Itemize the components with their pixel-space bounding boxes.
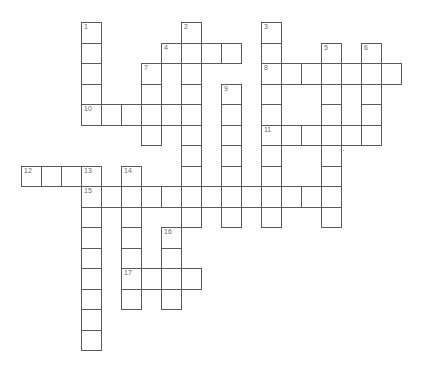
crossword-cell[interactable]	[81, 309, 102, 331]
crossword-cell[interactable]: 11	[261, 125, 282, 147]
crossword-cell[interactable]: 5	[321, 43, 342, 65]
crossword-cell[interactable]	[261, 166, 282, 188]
crossword-cell[interactable]	[221, 186, 242, 208]
crossword-cell[interactable]	[361, 63, 382, 85]
crossword-cell[interactable]: 13	[81, 166, 102, 188]
crossword-cell[interactable]: 14	[121, 166, 142, 188]
clue-number: 15	[84, 187, 92, 195]
crossword-cell[interactable]	[121, 207, 142, 229]
crossword-cell[interactable]	[241, 186, 262, 208]
crossword-cell[interactable]	[161, 248, 182, 270]
crossword-cell[interactable]	[221, 125, 242, 147]
crossword-cell[interactable]	[261, 104, 282, 126]
crossword-cell[interactable]	[141, 186, 162, 208]
crossword-cell[interactable]	[321, 63, 342, 85]
crossword-cell[interactable]: 17	[121, 268, 142, 290]
crossword-cell[interactable]	[81, 84, 102, 106]
crossword-cell[interactable]	[121, 289, 142, 311]
crossword-cell[interactable]	[221, 207, 242, 229]
clue-number: 7	[144, 64, 148, 72]
crossword-cell[interactable]	[141, 125, 162, 147]
crossword-cell[interactable]	[61, 166, 82, 188]
crossword-cell[interactable]: 4	[161, 43, 182, 65]
clue-number: 17	[124, 269, 132, 277]
crossword-cell[interactable]	[281, 63, 302, 85]
crossword-cell[interactable]	[281, 125, 302, 147]
crossword-cell[interactable]	[101, 104, 122, 126]
crossword-cell[interactable]	[81, 63, 102, 85]
crossword-cell[interactable]	[301, 63, 322, 85]
clue-number: 8	[264, 64, 268, 72]
crossword-cell[interactable]	[81, 289, 102, 311]
crossword-cell[interactable]	[141, 104, 162, 126]
crossword-cell[interactable]	[81, 330, 102, 352]
crossword-cell[interactable]	[161, 268, 182, 290]
crossword-cell[interactable]	[141, 84, 162, 106]
crossword-cell[interactable]	[181, 145, 202, 167]
crossword-cell[interactable]	[161, 186, 182, 208]
crossword-cell[interactable]	[181, 84, 202, 106]
crossword-cell[interactable]	[261, 84, 282, 106]
crossword-cell[interactable]	[261, 186, 282, 208]
crossword-cell[interactable]	[261, 207, 282, 229]
crossword-cell[interactable]	[221, 166, 242, 188]
crossword-cell[interactable]	[81, 207, 102, 229]
crossword-cell[interactable]	[181, 166, 202, 188]
crossword-cell[interactable]	[121, 227, 142, 249]
crossword-cell[interactable]: 7	[141, 63, 162, 85]
crossword-cell[interactable]: 10	[81, 104, 102, 126]
crossword-cell[interactable]	[181, 186, 202, 208]
crossword-cell[interactable]	[81, 268, 102, 290]
clue-number: 14	[124, 167, 132, 175]
crossword-cell[interactable]	[381, 63, 402, 85]
crossword-cell[interactable]	[81, 248, 102, 270]
crossword-cell[interactable]: 6	[361, 43, 382, 65]
crossword-cell[interactable]	[321, 186, 342, 208]
crossword-cell[interactable]	[321, 207, 342, 229]
crossword-cell[interactable]	[281, 186, 302, 208]
crossword-cell[interactable]	[321, 125, 342, 147]
crossword-cell[interactable]	[161, 289, 182, 311]
crossword-cell[interactable]	[321, 166, 342, 188]
crossword-cell[interactable]	[181, 125, 202, 147]
crossword-cell[interactable]	[181, 104, 202, 126]
crossword-cell[interactable]	[161, 104, 182, 126]
crossword-cell[interactable]	[261, 145, 282, 167]
crossword-cell[interactable]	[181, 63, 202, 85]
crossword-cell[interactable]	[81, 227, 102, 249]
crossword-cell[interactable]	[81, 43, 102, 65]
crossword-cell[interactable]	[221, 43, 242, 65]
crossword-cell[interactable]	[101, 186, 122, 208]
crossword-cell[interactable]	[181, 43, 202, 65]
crossword-cell[interactable]: 3	[261, 22, 282, 44]
crossword-cell[interactable]	[121, 248, 142, 270]
crossword-cell[interactable]	[141, 268, 162, 290]
crossword-cell[interactable]	[221, 145, 242, 167]
crossword-cell[interactable]	[321, 145, 342, 167]
crossword-cell[interactable]	[301, 186, 322, 208]
crossword-cell[interactable]: 16	[161, 227, 182, 249]
crossword-cell[interactable]: 12	[21, 166, 42, 188]
crossword-cell[interactable]	[181, 207, 202, 229]
crossword-cell[interactable]: 2	[181, 22, 202, 44]
crossword-cell[interactable]	[121, 104, 142, 126]
crossword-cell[interactable]: 1	[81, 22, 102, 44]
crossword-cell[interactable]	[121, 186, 142, 208]
crossword-cell[interactable]	[261, 43, 282, 65]
crossword-cell[interactable]	[321, 84, 342, 106]
crossword-cell[interactable]	[361, 84, 382, 106]
crossword-cell[interactable]	[341, 125, 362, 147]
crossword-cell[interactable]: 9	[221, 84, 242, 106]
crossword-cell[interactable]: 8	[261, 63, 282, 85]
crossword-cell[interactable]	[221, 104, 242, 126]
crossword-cell[interactable]: 15	[81, 186, 102, 208]
crossword-cell[interactable]	[361, 125, 382, 147]
crossword-cell[interactable]	[41, 166, 62, 188]
crossword-cell[interactable]	[201, 43, 222, 65]
crossword-cell[interactable]	[321, 104, 342, 126]
crossword-cell[interactable]	[181, 268, 202, 290]
crossword-cell[interactable]	[301, 125, 322, 147]
crossword-cell[interactable]	[201, 186, 222, 208]
crossword-cell[interactable]	[341, 63, 362, 85]
crossword-cell[interactable]	[361, 104, 382, 126]
